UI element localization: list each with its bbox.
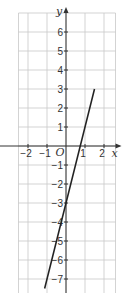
y-tick-label: 6 [57, 27, 63, 38]
y-tick-label: −7 [52, 274, 64, 285]
x-tick-label: −1 [39, 148, 51, 159]
y-tick-label: 2 [57, 103, 63, 114]
y-tick-label: 5 [57, 46, 63, 57]
y-tick-label: −3 [52, 198, 64, 209]
origin-label: O [55, 146, 64, 159]
y-axis-label: y [55, 5, 63, 18]
y-tick-label: 3 [57, 84, 63, 95]
y-tick-label: 1 [57, 122, 63, 133]
y-tick-label: 4 [57, 65, 63, 76]
y-tick-label: −2 [52, 179, 64, 190]
x-tick-label: −2 [20, 148, 32, 159]
y-axis-arrow-icon [64, 7, 69, 13]
line-graph: xyO−2−112654321−1−2−3−4−5−6−7 [0, 0, 131, 293]
x-axis-label: x [111, 147, 118, 160]
x-tick-label: 1 [80, 148, 86, 159]
y-tick-label: −1 [52, 160, 64, 171]
x-tick-label: 2 [99, 148, 105, 159]
